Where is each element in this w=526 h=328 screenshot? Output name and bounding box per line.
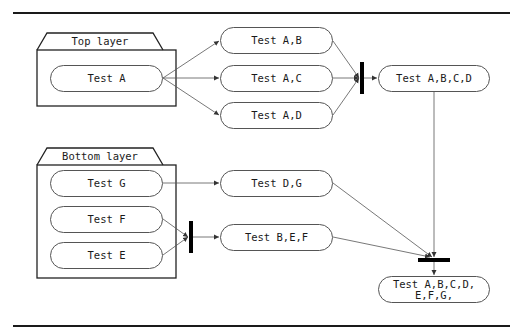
edge-ad-join bbox=[333, 78, 359, 115]
edge-bef-final bbox=[333, 237, 430, 257]
diagram-canvas: Top layer Bottom layer Test A Test A,B T… bbox=[0, 0, 526, 328]
join-bar-final bbox=[418, 258, 450, 262]
node-test-ad: Test A,D bbox=[220, 102, 333, 129]
node-test-ac: Test A,C bbox=[220, 65, 333, 92]
edge-dg-final bbox=[333, 183, 432, 257]
node-test-dg: Test D,G bbox=[220, 170, 333, 197]
edge-a-ab bbox=[163, 41, 219, 78]
bottom-layer-label: Bottom layer bbox=[47, 148, 153, 164]
top-layer-label: Top layer bbox=[47, 33, 153, 49]
node-test-bef: Test B,E,F bbox=[220, 224, 333, 251]
node-test-e: Test E bbox=[50, 242, 163, 269]
join-bar-bottom bbox=[189, 221, 193, 253]
node-test-ab: Test A,B bbox=[220, 27, 333, 54]
join-bar-top bbox=[360, 62, 364, 94]
node-test-all: Test A,B,C,D, E,F,G, bbox=[378, 276, 490, 303]
node-test-abcd: Test A,B,C,D bbox=[378, 65, 490, 92]
edge-ab-join bbox=[333, 41, 359, 78]
edge-a-ad bbox=[163, 78, 219, 115]
node-test-g: Test G bbox=[50, 170, 163, 197]
node-test-a: Test A bbox=[50, 65, 163, 92]
node-test-f: Test F bbox=[50, 206, 163, 233]
